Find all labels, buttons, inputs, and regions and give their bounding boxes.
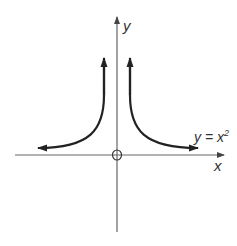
curve-equation-label: y = x2 xyxy=(193,128,229,145)
curve-left-branch xyxy=(38,60,104,148)
graph-canvas: y x y = x2 xyxy=(0,0,237,246)
y-axis-label: y xyxy=(122,17,132,34)
x-axis-label: x xyxy=(213,157,222,174)
equation-lhs: y = x xyxy=(193,129,225,145)
curve-right-branch xyxy=(130,60,198,148)
equation-exponent: 2 xyxy=(223,128,229,138)
